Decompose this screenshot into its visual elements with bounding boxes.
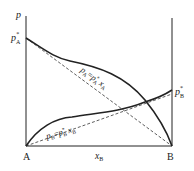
endpoint-A-label: A	[23, 151, 31, 162]
pB-star-label: pB*	[174, 85, 184, 99]
pA-star-label: pA*	[10, 31, 21, 45]
vapor-pressure-diagram: p pA* pB* pA=p*AxA pB=p*BxB A B xB	[0, 0, 194, 171]
y-axis-label: p	[15, 9, 21, 20]
raoult-B-equation: pB=p*BxB	[44, 123, 77, 142]
x-axis-label: xB	[94, 151, 103, 162]
raoult-A-equation: pA=p*AxA	[77, 64, 109, 92]
endpoint-B-label: B	[167, 151, 174, 162]
